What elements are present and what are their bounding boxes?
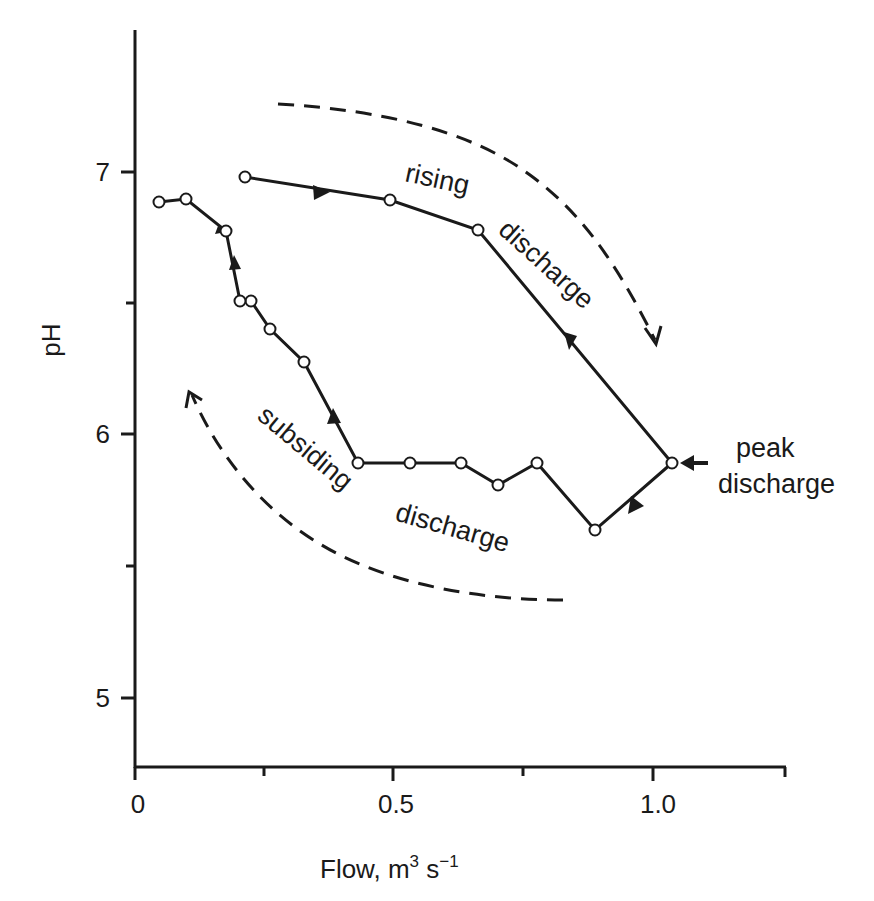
data-point xyxy=(473,225,484,236)
data-point xyxy=(246,296,257,307)
data-point xyxy=(532,458,543,469)
x-axis-title: Flow, m3 s−1 xyxy=(320,852,459,884)
x-axis: 0 0.5 1.0 Flow, m3 s−1 xyxy=(131,767,786,884)
data-point xyxy=(265,324,276,335)
x-tick-label-0-5: 0.5 xyxy=(378,789,414,819)
annotation-peak-discharge: discharge xyxy=(718,469,835,499)
rising-limb-series xyxy=(245,177,672,463)
ph-flow-chart: 7 6 5 pH 0 0.5 1.0 Flow, m3 s−1 xyxy=(0,0,874,901)
arrow-left-icon xyxy=(680,455,694,471)
data-point xyxy=(235,296,246,307)
rising-direction-guide xyxy=(278,104,661,344)
data-point xyxy=(221,226,232,237)
data-point xyxy=(240,172,251,183)
data-point xyxy=(353,458,364,469)
y-axis: 7 6 5 pH xyxy=(36,30,135,768)
data-point xyxy=(456,458,467,469)
arrowhead-icon xyxy=(313,185,330,200)
y-axis-title: pH xyxy=(36,323,66,356)
y-tick-label-5: 5 xyxy=(96,683,110,713)
x-tick-label-0: 0 xyxy=(131,789,145,819)
x-tick-label-1-0: 1.0 xyxy=(640,789,676,819)
y-tick-label-7: 7 xyxy=(96,157,110,187)
subsiding-direction-guide xyxy=(186,392,563,600)
annotation-rising: rising xyxy=(403,158,472,201)
annotation-rising-discharge: discharge xyxy=(493,214,600,315)
data-point-peak xyxy=(667,458,678,469)
data-point xyxy=(590,525,601,536)
annotation-subsiding-discharge: discharge xyxy=(392,497,513,558)
data-point xyxy=(154,197,165,208)
peak-pointer xyxy=(680,455,708,471)
data-point xyxy=(181,194,192,205)
annotation-subsiding: subsiding xyxy=(252,400,359,496)
data-point xyxy=(299,357,310,368)
y-tick-label-6: 6 xyxy=(96,419,110,449)
data-point xyxy=(385,195,396,206)
data-point xyxy=(493,480,504,491)
data-point xyxy=(405,458,416,469)
annotation-peak: peak xyxy=(736,433,795,463)
subsiding-limb-series xyxy=(159,199,672,530)
data-points xyxy=(154,172,678,536)
